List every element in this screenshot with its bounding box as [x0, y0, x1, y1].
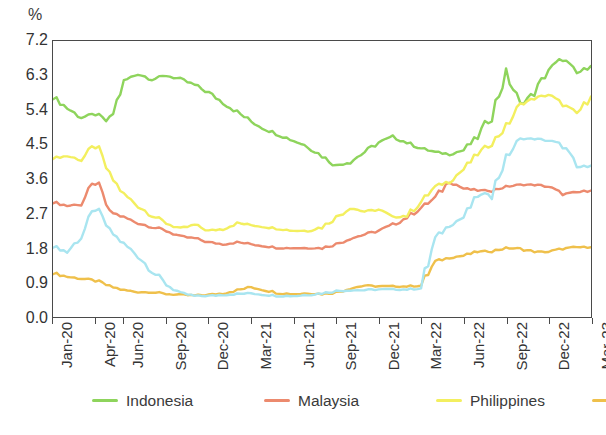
- legend-item-philippines[interactable]: Philippines: [436, 392, 592, 410]
- series-line-indonesia: [53, 59, 591, 165]
- plot-lines: [53, 41, 591, 317]
- x-axis-tick-label: Mar-21: [257, 322, 274, 370]
- y-axis-tick-label: 3.6: [2, 170, 48, 188]
- x-axis-tick-mark: [52, 318, 53, 324]
- legend-swatch-icon: [436, 399, 462, 402]
- legend-label: Malaysia: [298, 392, 359, 410]
- x-axis-tick-label: Jun-22: [470, 322, 487, 368]
- y-axis-tick-label: 0.0: [2, 309, 48, 327]
- x-axis-tick-mark: [95, 318, 96, 324]
- x-axis-tick-mark: [166, 318, 167, 324]
- y-axis-tick-label: 2.7: [2, 205, 48, 223]
- series-line-viet-nam: [53, 138, 591, 296]
- x-axis-tick-mark: [208, 318, 209, 324]
- x-axis-tick-label: Apr-20: [101, 322, 118, 367]
- x-axis-tick-label: Dec-20: [214, 322, 231, 370]
- legend-item-malaysia[interactable]: Malaysia: [264, 392, 436, 410]
- legend-item-indonesia[interactable]: Indonesia: [92, 392, 264, 410]
- y-axis-tick-label: 0.9: [2, 274, 48, 292]
- y-axis-tick-label: 7.2: [2, 31, 48, 49]
- x-axis-tick-mark: [379, 318, 380, 324]
- x-axis-tick-label: Jun-20: [129, 322, 146, 368]
- x-axis-tick-label: Jan-20: [58, 322, 75, 368]
- x-axis-tick-mark: [507, 318, 508, 324]
- x-axis-tick-mark: [251, 318, 252, 324]
- chart-legend: IndonesiaMalaysiaPhilippinesThailandViet…: [92, 390, 592, 411]
- series-line-philippines: [53, 95, 591, 232]
- x-axis-tick-label: Sep-20: [172, 322, 189, 370]
- x-axis-tick-label: Dec-22: [555, 322, 572, 370]
- plot-area: [52, 40, 592, 318]
- legend-label: Indonesia: [126, 392, 193, 410]
- y-axis-tick-label: 1.8: [2, 240, 48, 258]
- x-axis-tick-label: Jun-21: [300, 322, 317, 368]
- x-axis-tick-mark: [464, 318, 465, 324]
- y-axis-tick-label: 5.4: [2, 101, 48, 119]
- x-axis-tick-label: Mar-23: [598, 322, 606, 370]
- x-axis-tick-mark: [592, 318, 593, 324]
- x-axis-tick-mark: [336, 318, 337, 324]
- legend-item-thailand[interactable]: Thailand: [592, 392, 606, 410]
- x-axis-tick-mark: [294, 318, 295, 324]
- series-line-malaysia: [53, 183, 591, 249]
- x-axis-tick-label: Dec-21: [385, 322, 402, 370]
- legend-swatch-icon: [264, 399, 290, 402]
- x-axis-tick-label: Sep-22: [513, 322, 530, 370]
- x-axis-tick-label: Sep-21: [342, 322, 359, 370]
- x-axis-tick-mark: [549, 318, 550, 324]
- y-axis-tick-label: 4.5: [2, 135, 48, 153]
- legend-label: Philippines: [470, 392, 545, 410]
- legend-swatch-icon: [592, 399, 606, 402]
- x-axis-tick-mark: [421, 318, 422, 324]
- x-axis-tick-label: Mar-22: [427, 322, 444, 370]
- legend-swatch-icon: [92, 399, 118, 402]
- chart-figure: % 0.00.91.82.73.64.55.46.37.2 Jan-20Apr-…: [0, 0, 606, 435]
- x-axis-tick-mark: [123, 318, 124, 324]
- y-axis-tick-label: 6.3: [2, 66, 48, 84]
- y-axis-tick-labels: 0.00.91.82.73.64.55.46.37.2: [0, 0, 48, 435]
